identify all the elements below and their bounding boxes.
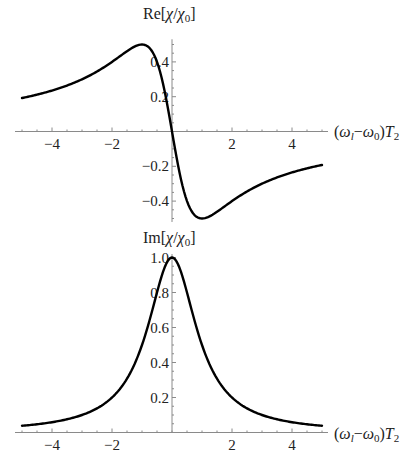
- y-tick-label: 0.2: [150, 390, 169, 406]
- y-tick-label: −0.2: [142, 158, 169, 174]
- x-tick-label: 4: [288, 136, 296, 152]
- top-x-axis-label: (ωl−ω0)T2: [334, 123, 399, 142]
- x-tick-label: 2: [228, 136, 236, 152]
- x-tick-label: 2: [228, 437, 236, 453]
- bottom-x-axis-label: (ωl−ω0)T2: [334, 425, 399, 444]
- x-tick-label: −2: [104, 437, 120, 453]
- y-tick-label: −0.4: [142, 193, 170, 209]
- top-plot-real-part: −4−224−0.4−0.20.20.4: [15, 39, 328, 222]
- bottom-plot-imaginary-part: −4−2240.20.40.60.81.0: [15, 250, 328, 453]
- top-y-axis-label: Re[χ/χ0]: [143, 5, 195, 24]
- y-tick-label: 0.4: [150, 355, 169, 371]
- x-tick-label: 4: [288, 437, 296, 453]
- x-tick-label: −4: [44, 437, 60, 453]
- plots-canvas: −4−224−0.4−0.20.20.4 −4−2240.20.40.60.81…: [0, 0, 416, 465]
- x-tick-label: −2: [104, 136, 120, 152]
- figure: −4−224−0.4−0.20.20.4 −4−2240.20.40.60.81…: [0, 0, 416, 465]
- x-tick-label: −4: [44, 136, 60, 152]
- bottom-y-axis-label: Im[χ/χ0]: [143, 229, 195, 248]
- y-tick-label: 0.6: [150, 320, 169, 336]
